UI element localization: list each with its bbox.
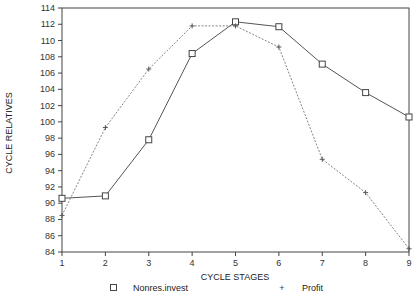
series-profit [60, 23, 412, 251]
legend-item-nonres-invest: Nonres.invest [105, 283, 188, 293]
y-tick-label: 104 [40, 84, 55, 94]
plus-marker-icon [276, 45, 281, 50]
x-tick-label: 7 [320, 258, 325, 268]
legend-item-profit: + Profit [274, 283, 323, 293]
chart-series [59, 19, 412, 251]
square-marker-icon [146, 137, 152, 143]
y-tick-label: 106 [40, 68, 55, 78]
y-axis-ticks: 8486889092949698100102104106108110112114 [40, 3, 62, 257]
plot-frame [62, 8, 409, 252]
x-tick-label: 6 [276, 258, 281, 268]
x-axis-title: CYCLE STAGES [201, 272, 269, 282]
chart-legend: Nonres.invest + Profit [0, 283, 414, 297]
y-tick-label: 86 [45, 231, 55, 241]
square-marker-icon [102, 193, 108, 199]
square-marker-icon [189, 51, 195, 57]
series-nonres-invest [59, 19, 412, 201]
x-tick-label: 9 [406, 258, 411, 268]
plus-marker-icon [190, 23, 195, 28]
square-marker-icon [319, 61, 325, 67]
y-axis-title: CYCLE RELATIVES [4, 92, 14, 173]
y-tick-label: 88 [45, 214, 55, 224]
y-tick-label: 102 [40, 101, 55, 111]
x-tick-label: 8 [363, 258, 368, 268]
y-tick-label: 100 [40, 117, 55, 127]
chart-axes [62, 8, 409, 252]
legend-label: Nonres.invest [133, 283, 188, 293]
y-tick-label: 108 [40, 52, 55, 62]
x-axis-ticks: 123456789 [59, 252, 411, 268]
y-tick-label: 84 [45, 247, 55, 257]
y-tick-label: 112 [41, 19, 55, 29]
x-tick-label: 5 [233, 258, 238, 268]
y-tick-label: 90 [45, 198, 55, 208]
y-tick-label: 96 [45, 149, 55, 159]
line-chart: 8486889092949698100102104106108110112114… [0, 0, 414, 301]
y-tick-label: 114 [41, 3, 55, 13]
x-tick-label: 4 [190, 258, 195, 268]
plus-marker-icon [103, 125, 108, 130]
plus-marker-icon: + [274, 283, 290, 293]
square-marker-icon [59, 195, 65, 201]
y-tick-label: 110 [41, 36, 55, 46]
square-marker-icon [105, 283, 121, 293]
square-marker-icon [276, 24, 282, 30]
square-marker-icon [406, 114, 412, 120]
y-tick-label: 98 [45, 133, 55, 143]
plus-marker-icon [60, 213, 65, 218]
x-tick-label: 2 [103, 258, 108, 268]
x-tick-label: 1 [59, 258, 64, 268]
y-tick-label: 94 [45, 166, 55, 176]
x-tick-label: 3 [146, 258, 151, 268]
y-tick-label: 92 [45, 182, 55, 192]
square-marker-icon [363, 90, 369, 96]
legend-label: Profit [302, 283, 323, 293]
